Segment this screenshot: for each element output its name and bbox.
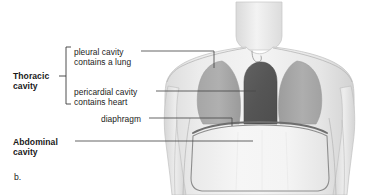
label-abdominal-cavity: Abdominal cavity <box>13 137 58 157</box>
label-diaphragm: diaphragm <box>101 114 141 124</box>
label-abdominal-line2: cavity <box>13 147 58 157</box>
abdominal-cavity <box>191 125 329 191</box>
label-pericardial-line2: contains heart <box>74 97 137 107</box>
thoracic-bracket <box>59 47 71 104</box>
label-diaphragm-text: diaphragm <box>101 114 141 124</box>
label-thoracic-cavity: Thoracic cavity <box>13 71 49 91</box>
label-pericardial-line1: pericardial cavity <box>74 87 137 97</box>
label-pleural-line1: pleural cavity <box>74 47 131 57</box>
label-pleural-cavity: pleural cavity contains a lung <box>74 47 131 67</box>
neck <box>236 2 282 50</box>
body-cavities-diagram <box>0 0 365 195</box>
label-thoracic-line1: Thoracic <box>13 71 49 81</box>
label-abdominal-line1: Abdominal <box>13 137 58 147</box>
heart <box>244 62 277 124</box>
torso-figure <box>164 2 354 195</box>
panel-letter: b. <box>14 172 21 182</box>
label-pericardial-cavity: pericardial cavity contains heart <box>74 87 137 107</box>
label-thoracic-line2: cavity <box>13 81 49 91</box>
label-pleural-line2: contains a lung <box>74 57 131 67</box>
